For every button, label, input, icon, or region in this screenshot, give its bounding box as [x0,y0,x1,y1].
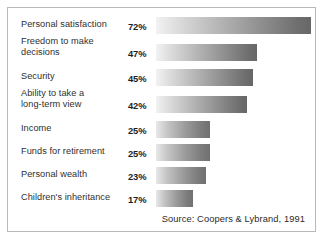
bar-category-label: Children's inheritance [21,192,133,203]
bar-value-label: 25% [128,148,158,159]
bar [156,144,210,161]
bar-value-label: 42% [128,100,158,111]
bar-category-label: Personal wealth [21,169,133,180]
bar [156,69,253,86]
bar-row: Freedom to make decisions47% [8,39,315,63]
bar-category-label: Income [21,123,133,134]
source-note: Source: Coopers & Lybrand, 1991 [162,214,305,224]
bar-value-label: 45% [128,73,158,84]
bar-category-label: Security [21,71,133,82]
bar-category-label: Personal satisfaction [21,19,133,30]
bar-value-label: 23% [128,171,158,182]
bar-value-label: 25% [128,125,158,136]
bar-row: Children's inheritance17% [8,189,315,213]
bar [156,17,311,34]
bar-row: Ability to take a long-term view42% [8,91,315,115]
chart-frame: Personal satisfaction72%Freedom to make … [7,7,316,232]
bar [156,167,206,184]
bar-value-label: 17% [128,194,158,205]
bar [156,121,210,138]
bar-value-label: 47% [128,48,158,59]
bar-row: Personal wealth23% [8,166,315,190]
bar-category-label: Funds for retirement [21,146,133,157]
bar-category-label: Freedom to make decisions [21,36,133,58]
bar-row: Funds for retirement25% [8,143,315,167]
bar [156,96,247,113]
bar [156,44,257,61]
bar-category-label: Ability to take a long-term view [21,88,133,110]
bar-value-label: 72% [128,21,158,32]
bar-row: Income25% [8,120,315,144]
bar [156,190,193,207]
